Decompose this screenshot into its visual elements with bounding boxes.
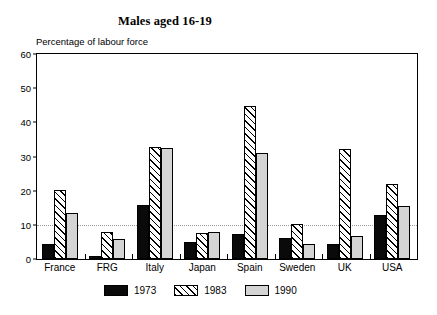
- bar-japan-1990: [208, 232, 220, 259]
- bar-italy-1973: [137, 205, 149, 259]
- bar-spain-1983: [244, 106, 256, 259]
- x-axis-tick-mark: [275, 254, 276, 259]
- x-axis-tick-mark: [370, 254, 371, 259]
- bar-italy-1983: [149, 147, 161, 259]
- x-axis-tick-label: USA: [369, 262, 417, 273]
- chart-figure: Males aged 16-19 Percentage of labour fo…: [0, 0, 437, 315]
- bar-uk-1990: [351, 236, 363, 259]
- x-axis-tick-label: Spain: [226, 262, 274, 273]
- legend-swatch-1983: [174, 285, 198, 296]
- bar-japan-1973: [184, 242, 196, 259]
- legend-swatch-1990: [245, 285, 269, 296]
- legend-label-1973: 1973: [134, 285, 156, 296]
- bar-sweden-1973: [279, 238, 291, 259]
- x-axis-tick-label: FRG: [84, 262, 132, 273]
- plot-inner: [37, 54, 417, 259]
- bar-usa-1983: [386, 184, 398, 259]
- legend-swatch-1973: [104, 285, 128, 296]
- bar-group: [232, 54, 268, 259]
- bar-frg-1973: [89, 256, 101, 259]
- bar-group: [42, 54, 78, 259]
- legend-item-1983: 1983: [174, 285, 226, 296]
- plot-area: 0102030405060: [36, 53, 418, 260]
- bar-group: [89, 54, 125, 259]
- bar-group: [137, 54, 173, 259]
- bar-usa-1990: [398, 206, 410, 259]
- x-axis-tick-label: Japan: [179, 262, 227, 273]
- y-axis-tick-mark: [33, 156, 37, 157]
- bar-spain-1973: [232, 234, 244, 259]
- bar-frg-1990: [113, 239, 125, 260]
- bar-group: [279, 54, 315, 259]
- bar-italy-1990: [161, 148, 173, 259]
- bar-japan-1983: [196, 233, 208, 259]
- y-axis-label: Percentage of labour force: [36, 36, 148, 47]
- x-axis-tick-label: UK: [321, 262, 369, 273]
- legend-item-1990: 1990: [245, 285, 297, 296]
- x-axis-tick-mark: [132, 254, 133, 259]
- bar-sweden-1990: [303, 244, 315, 259]
- x-axis-tick-mark: [322, 254, 323, 259]
- x-axis-tick-label: Sweden: [274, 262, 322, 273]
- bar-spain-1990: [256, 153, 268, 259]
- bar-france-1990: [66, 213, 78, 259]
- bar-sweden-1983: [291, 224, 303, 259]
- x-axis-tick-label: France: [36, 262, 84, 273]
- bar-france-1973: [42, 244, 54, 259]
- legend-item-1973: 1973: [104, 285, 156, 296]
- bar-uk-1983: [339, 149, 351, 259]
- legend-label-1983: 1983: [204, 285, 226, 296]
- bar-usa-1973: [374, 215, 386, 259]
- bar-uk-1973: [327, 244, 339, 259]
- bar-group: [327, 54, 363, 259]
- x-axis-tick-mark: [227, 254, 228, 259]
- y-axis-tick-mark: [33, 259, 37, 260]
- bar-frg-1983: [101, 232, 113, 259]
- bar-group: [184, 54, 220, 259]
- x-axis-tick-mark: [180, 254, 181, 259]
- chart-legend: 197319831990: [104, 285, 297, 296]
- y-axis-tick-mark: [33, 190, 37, 191]
- y-axis-tick-mark: [33, 88, 37, 89]
- x-axis-tick-label: Italy: [131, 262, 179, 273]
- y-axis-tick-mark: [33, 224, 37, 225]
- y-axis-tick-mark: [33, 54, 37, 55]
- chart-title: Males aged 16-19: [0, 14, 330, 29]
- x-axis-tick-mark: [85, 254, 86, 259]
- legend-label-1990: 1990: [275, 285, 297, 296]
- bar-france-1983: [54, 190, 66, 259]
- y-axis-tick-mark: [33, 122, 37, 123]
- bar-group: [374, 54, 410, 259]
